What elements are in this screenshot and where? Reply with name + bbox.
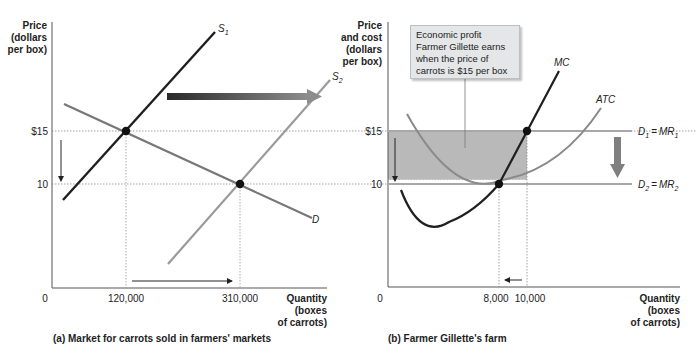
profit-max-point-15 bbox=[523, 127, 531, 135]
y-axis-label-line1: Price bbox=[358, 20, 383, 31]
y-tick-15: $15 bbox=[365, 126, 382, 137]
diagram-canvas: Price (dollars per box) $15 10 0 120,000… bbox=[0, 0, 696, 355]
equilibrium-point-1 bbox=[122, 127, 130, 135]
x-tick-8000: 8,000 bbox=[483, 293, 508, 304]
x-axis-label-line2: (boxes bbox=[648, 305, 681, 316]
x-axis-label-line1: Quantity bbox=[286, 293, 327, 304]
y-axis-label-line2: and cost bbox=[341, 32, 383, 43]
x-tick-0: 0 bbox=[377, 293, 383, 304]
x-tick-0: 0 bbox=[42, 293, 48, 304]
label-d1-mr1: D1=MR1 bbox=[638, 126, 679, 139]
label-d2-mr2: D2=MR2 bbox=[638, 179, 679, 192]
label-demand: D bbox=[312, 214, 319, 225]
x-axis-label-line1: Quantity bbox=[639, 293, 680, 304]
y-tick-10: 10 bbox=[37, 179, 49, 190]
label-mc: MC bbox=[554, 57, 570, 68]
profit-max-point-10 bbox=[495, 180, 503, 188]
label-atc: ATC bbox=[595, 94, 616, 105]
equilibrium-point-2 bbox=[236, 180, 244, 188]
label-s2: S2 bbox=[332, 71, 343, 84]
supply-curve-s2 bbox=[168, 80, 330, 264]
caption-a: (a) Market for carrots sold in farmers' … bbox=[53, 333, 271, 344]
demand-curve bbox=[64, 104, 312, 218]
label-s1: S1 bbox=[218, 23, 229, 36]
y-axis-label-line3: per box) bbox=[8, 44, 47, 55]
x-tick-120000: 120,000 bbox=[108, 293, 145, 304]
panel-a-market: Price (dollars per box) $15 10 0 120,000… bbox=[8, 20, 696, 344]
y-axis-label-line1: Price bbox=[23, 20, 48, 31]
supply-curve-s1 bbox=[63, 32, 215, 200]
y-axis-label-line4: per box) bbox=[343, 56, 382, 67]
y-tick-10: 10 bbox=[371, 179, 383, 190]
caption-b: (b) Farmer Gillette's farm bbox=[388, 333, 507, 344]
price-drop-arrow bbox=[614, 137, 621, 165]
x-axis-label-line3: of carrots) bbox=[278, 317, 327, 328]
y-tick-15: $15 bbox=[31, 126, 48, 137]
x-tick-10000: 10,000 bbox=[515, 293, 546, 304]
y-axis-label-line2: (dollars bbox=[11, 32, 48, 43]
x-axis-label-line3: of carrots) bbox=[631, 317, 680, 328]
supply-shift-arrow bbox=[167, 93, 307, 100]
x-axis-label-line2: (boxes bbox=[295, 305, 328, 316]
x-tick-310000: 310,000 bbox=[222, 293, 259, 304]
price-drop-arrowhead bbox=[610, 164, 625, 178]
y-axis-label-line3: (dollars bbox=[346, 44, 383, 55]
economic-profit-callout: Economic profit Farmer Gillette earns wh… bbox=[410, 25, 520, 79]
